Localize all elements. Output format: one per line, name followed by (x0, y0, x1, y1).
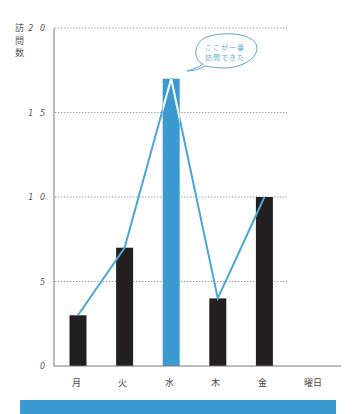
bar-chart: 訪問数 051 01 52 0 月火水木金 曜日 ここが一番 訪問できた (0, 0, 362, 414)
y-axis-ticks: 051 01 52 0 (28, 24, 47, 371)
y-tick-label: 1 0 (28, 193, 47, 202)
bottom-color-band (20, 400, 336, 414)
x-category-label: 木 (211, 377, 220, 388)
x-axis-labels: 月火水木金 (72, 377, 267, 388)
bar (256, 197, 273, 366)
bar (209, 298, 226, 366)
y-axis-title-char: 数 (15, 47, 24, 58)
y-tick-label: 1 5 (28, 109, 47, 118)
annotation-line-1: ここが一番 (205, 43, 245, 52)
y-axis-title-char: 訪 (15, 22, 24, 33)
bar (116, 248, 133, 366)
y-axis-title-char: 問 (15, 36, 24, 46)
x-category-label: 火 (118, 378, 127, 388)
y-tick-label: 0 (40, 362, 47, 371)
annotation-speech-bubble: ここが一番 訪問できた (187, 34, 257, 71)
annotation-line-2: 訪問できた (205, 53, 245, 62)
x-category-label: 金 (258, 377, 267, 388)
x-axis-title: 曜日 (304, 378, 322, 388)
bar-highlighted (163, 79, 180, 366)
bars (70, 79, 273, 366)
y-tick-label: 2 0 (28, 24, 47, 33)
bar (70, 315, 87, 366)
y-tick-label: 5 (40, 278, 47, 287)
speech-bubble-shape (187, 34, 257, 71)
x-category-label: 月 (72, 378, 81, 388)
y-axis-title: 訪問数 (15, 22, 24, 58)
x-category-label: 水 (165, 377, 174, 388)
